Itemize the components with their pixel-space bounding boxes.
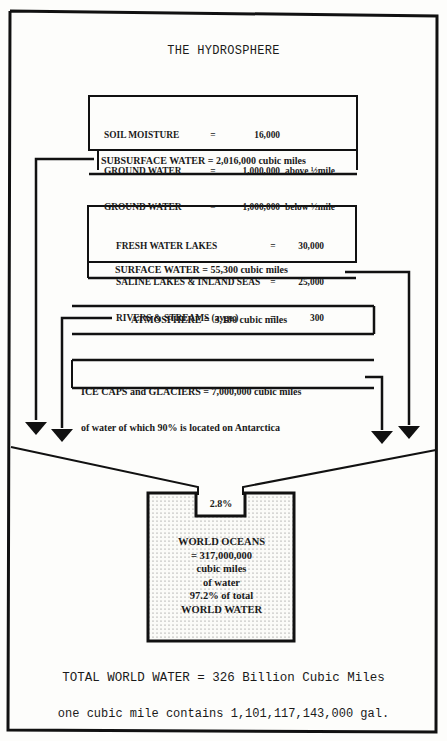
item-label: FRESH WATER LAKES (116, 240, 266, 252)
item-eq: = (204, 129, 222, 141)
item-note: below ½mile (280, 201, 335, 213)
ocean-line: of water (148, 576, 295, 590)
ocean-line: = 317,000,000 (148, 549, 295, 563)
world-oceans-text: WORLD OCEANS = 317,000,000 cubic miles o… (148, 535, 295, 616)
item-eq: = (266, 276, 280, 288)
item-value: 16,000 (222, 129, 280, 141)
item-label: SOIL MOISTURE (104, 129, 204, 141)
gallons-per-cubic-mile: one cubic mile contains 1,101,117,143,00… (0, 707, 447, 721)
subsurface-total: SUBSURFACE WATER = 2,016,000 cubic miles (101, 155, 306, 167)
ice-line-1: ICE CAPS and GLACIERS = 7,000,000 cubic … (81, 386, 301, 398)
item-eq: = (266, 240, 280, 252)
item-label: SALINE LAKES & INLAND SEAS (116, 276, 266, 288)
surface-item: FRESH WATER LAKES = 30,000 (116, 240, 324, 252)
item-value: 25,000 (280, 276, 324, 288)
diagram-title: THE HYDROSPHERE (0, 44, 447, 58)
total-world-water: TOTAL WORLD WATER = 326 Billion Cubic Mi… (0, 671, 447, 685)
item-eq: = (204, 201, 222, 213)
ocean-line: WORLD OCEANS (148, 535, 295, 549)
atmosphere-label: ATMOSPHERE = 3,100 cubic miles (131, 314, 287, 326)
item-label: GROUND WATER (104, 201, 204, 213)
item-value: 1,000,000 (222, 201, 280, 213)
ice-caps-text: ICE CAPS and GLACIERS = 7,000,000 cubic … (81, 362, 301, 446)
surface-item: SALINE LAKES & INLAND SEAS = 25,000 (116, 276, 324, 288)
item-value: 30,000 (280, 240, 324, 252)
ocean-line: WORLD WATER (148, 603, 295, 617)
subsurface-item: GROUND WATER = 1,000,000 below ½mile (104, 201, 335, 213)
subsurface-item: SOIL MOISTURE = 16,000 (104, 129, 335, 141)
ice-line-2: of water of which 90% is located on Anta… (81, 422, 301, 434)
surface-total: SURFACE WATER = 55,300 cubic miles (115, 264, 288, 276)
ocean-line: 97.2% of total (148, 589, 295, 603)
funnel-percent: 2.8% (196, 498, 246, 509)
ocean-line: cubic miles (148, 562, 295, 576)
